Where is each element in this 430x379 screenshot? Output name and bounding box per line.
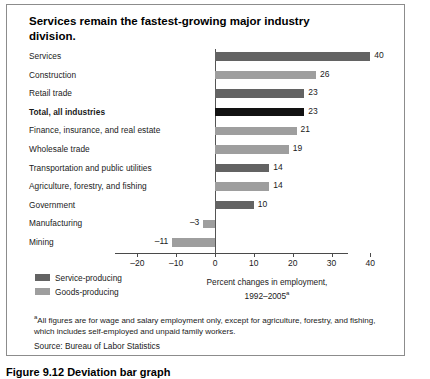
bar-value-label: 40 (374, 50, 383, 60)
bar-row: Agriculture, forestry, and fishing14 (21, 179, 401, 198)
bar-rows: Services40Construction26Retail trade23To… (21, 49, 401, 254)
bar (215, 71, 316, 79)
bar-row: Wholesale trade19 (21, 142, 401, 161)
bar-value-label: –3 (183, 217, 199, 227)
footnote: aAll figures are for wage and salary emp… (34, 312, 389, 337)
bar (215, 52, 370, 60)
footnote-text: All figures are for wage and salary empl… (34, 316, 375, 336)
x-tick-label: 0 (213, 258, 218, 268)
x-tick-label: 40 (366, 258, 375, 268)
legend-label-goods-producing: Goods-producing (55, 287, 119, 297)
x-tick-label: 30 (327, 258, 336, 268)
x-tick-label: 10 (249, 258, 258, 268)
x-axis-title-footnote-marker: a (286, 290, 289, 296)
bar-row: Retail trade23 (21, 86, 401, 105)
chart-plot-area: Services40Construction26Retail trade23To… (21, 49, 401, 254)
bar-category-label: Government (29, 200, 75, 210)
bar-value-label: 23 (308, 106, 317, 116)
bar-category-label: Construction (29, 70, 76, 80)
bar (172, 238, 215, 246)
x-tick (176, 253, 177, 257)
bar-value-label: 26 (320, 69, 329, 79)
x-tick (370, 253, 371, 257)
x-axis-title: Percent changes in employment, 1992–2005… (187, 277, 347, 302)
bar-row: Transportation and public utilities14 (21, 161, 401, 180)
x-axis-line (115, 253, 348, 254)
bar-category-label: Wholesale trade (29, 144, 90, 154)
x-tick (137, 253, 138, 257)
bar-row: Services40 (21, 49, 401, 68)
legend: Service-producing Goods-producing (35, 272, 122, 300)
bar-value-label: –11 (152, 236, 168, 246)
x-tick-label: –20 (130, 258, 144, 268)
x-axis-title-line2: 1992–2005 (245, 291, 287, 301)
bar (215, 201, 254, 209)
bar-row: Mining–11 (21, 235, 401, 254)
bar-category-label: Services (29, 51, 61, 61)
x-tick (215, 253, 216, 257)
bar-category-label: Mining (29, 237, 54, 247)
bar-category-label: Manufacturing (29, 218, 82, 228)
bar-category-label: Agriculture, forestry, and fishing (29, 181, 147, 191)
bar-category-label: Total, all industries (29, 107, 105, 117)
bar (215, 127, 297, 135)
x-tick-label: –10 (169, 258, 183, 268)
bar-row: Finance, insurance, and real estate21 (21, 123, 401, 142)
bar (203, 220, 215, 228)
bar-row: Construction26 (21, 68, 401, 87)
x-tick (293, 253, 294, 257)
legend-swatch-goods-producing (35, 288, 50, 295)
bar (215, 182, 269, 190)
bar (215, 145, 289, 153)
bar-row: Government10 (21, 198, 401, 217)
x-axis: –20–10010203040 (21, 253, 401, 269)
bar (215, 108, 304, 116)
x-tick (254, 253, 255, 257)
bar-category-label: Finance, insurance, and real estate (29, 125, 160, 135)
bar-value-label: 14 (273, 162, 282, 172)
bar-row: Manufacturing–3 (21, 216, 401, 235)
bar (215, 89, 304, 97)
x-axis-title-line1: Percent changes in employment, (207, 277, 328, 287)
x-tick (332, 253, 333, 257)
figure-box: Services remain the fastest-growing majo… (6, 4, 405, 356)
bar (215, 164, 269, 172)
legend-item-goods-producing: Goods-producing (35, 286, 122, 297)
bar-value-label: 23 (308, 87, 317, 97)
bar-value-label: 14 (273, 180, 282, 190)
legend-swatch-service-producing (35, 274, 50, 281)
bar-value-label: 10 (258, 199, 267, 209)
legend-item-service-producing: Service-producing (35, 272, 122, 283)
chart-title: Services remain the fastest-growing majo… (29, 14, 329, 44)
bar-category-label: Transportation and public utilities (29, 163, 152, 173)
bar-value-label: 19 (293, 143, 302, 153)
x-tick-label: 20 (288, 258, 297, 268)
source-line: Source: Bureau of Labor Statistics (34, 341, 160, 351)
figure-caption: Figure 9.12 Deviation bar graph (6, 366, 406, 379)
bar-value-label: 21 (301, 124, 310, 134)
bar-row: Total, all industries23 (21, 105, 401, 124)
legend-label-service-producing: Service-producing (55, 273, 122, 283)
bar-category-label: Retail trade (29, 88, 72, 98)
